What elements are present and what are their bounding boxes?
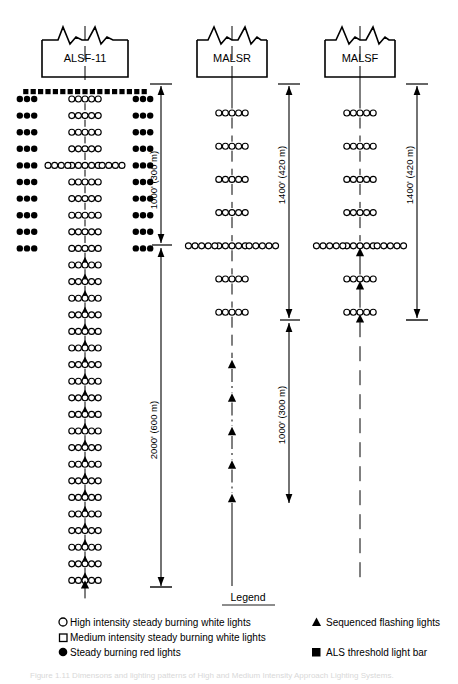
red-light-row-alsf: [17, 96, 38, 102]
light-open-circle: [357, 210, 363, 216]
light-red-filled: [133, 162, 139, 168]
light-open-circle: [69, 395, 75, 401]
light-open-circle: [89, 146, 95, 152]
system-title-alsf-11: ALSF-11: [64, 52, 107, 64]
threshold-light-square: [90, 89, 95, 94]
light-red-filled: [17, 229, 23, 235]
light-open-circle: [95, 544, 101, 550]
light-open-circle: [89, 179, 95, 185]
light-open-circle: [82, 212, 88, 218]
light-red-filled: [24, 96, 30, 102]
light-open-circle: [364, 210, 370, 216]
light-row-alsf-17: [69, 362, 101, 368]
light-open-circle: [357, 143, 363, 149]
red-light-row-alsf: [17, 146, 38, 152]
light-open-circle: [82, 328, 88, 334]
light-open-circle: [82, 96, 88, 102]
light-red-filled: [133, 245, 139, 251]
legend-title: Legend: [230, 591, 265, 603]
light-open-circle: [69, 478, 75, 484]
light-open-circle: [242, 143, 248, 149]
light-open-circle: [95, 245, 101, 251]
system-title-malsr: MALSR: [213, 52, 251, 64]
sequenced-flasher-triangle: [228, 427, 236, 435]
light-open-circle: [69, 295, 75, 301]
light-red-filled: [147, 112, 153, 118]
light-open-circle: [222, 143, 228, 149]
light-red-filled: [133, 96, 139, 102]
light-open-circle: [95, 378, 101, 384]
light-open-circle: [82, 478, 88, 484]
light-open-circle: [69, 445, 75, 451]
light-red-filled: [140, 229, 146, 235]
light-open-circle: [69, 196, 75, 202]
light-open-circle: [236, 309, 242, 315]
light-open-circle: [69, 345, 75, 351]
threshold-light-square: [112, 89, 117, 94]
light-open-circle: [95, 196, 101, 202]
dimension-1000ft-malsr: 1000' (300 m): [276, 323, 292, 503]
light-open-circle: [75, 362, 81, 368]
light-red-filled: [17, 245, 23, 251]
light-open-circle: [95, 96, 101, 102]
light-open-circle: [364, 110, 370, 116]
light-open-circle: [95, 146, 101, 152]
dim-arrow-up: [158, 248, 165, 257]
dimension-1400ft-malsr: 1400' (420 m): [276, 84, 300, 320]
system-alsf-11: ALSF-11 1000' (300 m) 2000' (600 m): [17, 26, 172, 598]
light-open-circle: [95, 328, 101, 334]
sequenced-flasher-triangle: [228, 393, 236, 401]
dimension-label-1400ft-malsf: 1400' (420 m): [404, 146, 415, 204]
light-open-circle: [89, 362, 95, 368]
filled-square-icon: [312, 648, 321, 657]
light-open-circle: [266, 243, 272, 249]
filled-triangle-icon: [312, 618, 321, 627]
sequenced-flasher-triangle: [356, 314, 364, 322]
light-open-circle: [350, 210, 356, 216]
light-open-circle: [75, 162, 81, 168]
light-open-circle: [75, 461, 81, 467]
dim-arrow-down: [414, 309, 421, 318]
light-open-circle: [344, 309, 350, 315]
light-row-alsf-19: [69, 395, 101, 401]
light-open-circle: [75, 577, 81, 583]
light-open-circle: [216, 309, 222, 315]
light-open-circle: [387, 243, 393, 249]
light-open-circle: [89, 262, 95, 268]
light-open-circle: [236, 243, 242, 249]
light-open-circle: [364, 143, 370, 149]
light-open-circle: [75, 494, 81, 500]
light-open-circle: [106, 162, 112, 168]
light-open-circle: [364, 243, 370, 249]
legend-label-sequenced-flashers: Sequenced flashing lights: [326, 617, 440, 628]
light-open-circle: [69, 494, 75, 500]
light-open-circle: [246, 243, 252, 249]
light-open-circle: [69, 561, 75, 567]
light-row-alsf-16: [69, 345, 101, 351]
light-open-circle: [82, 229, 88, 235]
light-open-circle: [69, 544, 75, 550]
red-light-row-alsf: [17, 195, 38, 201]
light-open-circle: [236, 210, 242, 216]
light-open-circle: [75, 196, 81, 202]
light-open-circle: [75, 245, 81, 251]
light-red-filled: [31, 179, 37, 185]
light-row-alsf-7: [69, 196, 101, 202]
light-open-circle: [82, 295, 88, 301]
light-open-circle: [75, 229, 81, 235]
light-red-filled: [31, 146, 37, 152]
light-red-filled: [31, 162, 37, 168]
light-red-filled: [17, 146, 23, 152]
light-open-circle: [95, 212, 101, 218]
light-row-alsf-24: [69, 478, 101, 484]
light-open-circle: [89, 445, 95, 451]
light-open-circle: [236, 143, 242, 149]
light-row-alsf-4: [69, 146, 101, 152]
light-open-circle: [333, 243, 339, 249]
sequenced-flasher-triangle: [228, 460, 236, 468]
light-open-circle: [82, 362, 88, 368]
light-open-circle: [82, 162, 88, 168]
light-open-circle: [95, 262, 101, 268]
light-open-circle: [344, 143, 350, 149]
light-row-malsr-2: [216, 143, 248, 149]
